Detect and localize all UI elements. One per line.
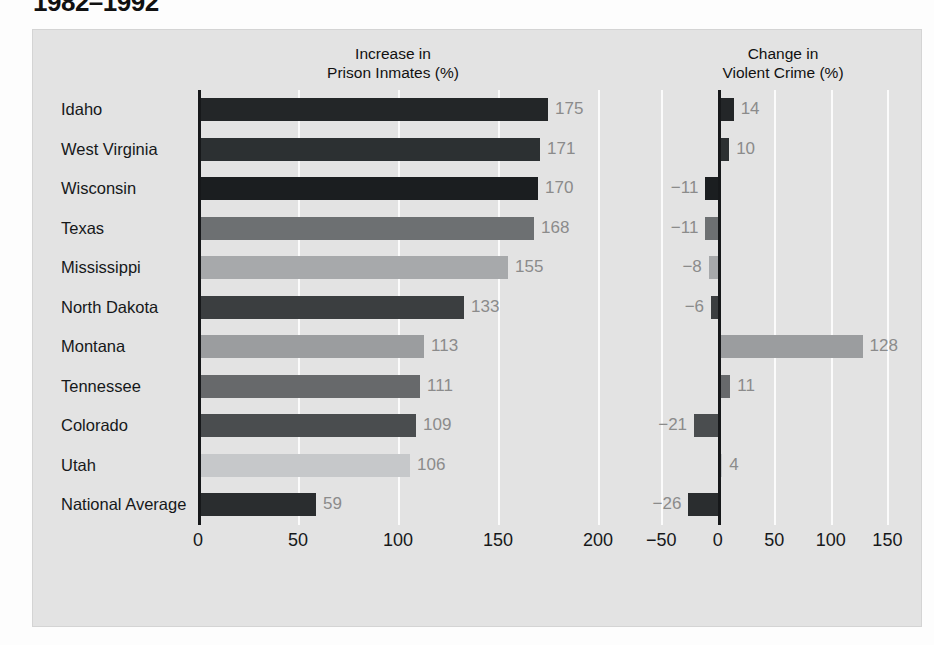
bar[interactable] <box>198 493 316 516</box>
chart-row: 128 <box>650 327 910 367</box>
axis-tick-label: 0 <box>193 530 203 551</box>
category-label: Idaho <box>33 90 193 130</box>
bar-value-label: 106 <box>417 455 445 475</box>
bar-value-label: 113 <box>431 336 458 356</box>
left-panel-header: Increase in Prison Inmates (%) <box>233 44 553 82</box>
chart-row: −11 <box>650 169 910 209</box>
right-panel-header-line1: Change in <box>653 44 913 63</box>
bar-value-label: −26 <box>653 494 682 514</box>
chart-row: −6 <box>650 288 910 328</box>
axis-tick-label: 50 <box>288 530 308 551</box>
bar-value-label: −11 <box>671 178 699 198</box>
chart-row: 175 <box>198 90 628 130</box>
chart-row: −26 <box>650 485 910 525</box>
bar[interactable] <box>198 335 424 358</box>
chart-row: 11 <box>650 367 910 407</box>
left-panel-header-line1: Increase in <box>233 44 553 63</box>
bar-value-label: 14 <box>741 99 760 119</box>
bar-value-label: 10 <box>736 139 755 159</box>
bar-value-label: −11 <box>671 218 699 238</box>
category-label: West Virginia <box>33 130 193 170</box>
category-label: Utah <box>33 446 193 486</box>
violent-crime-plot: 1410−11−11−8−612811−214−26 <box>650 90 910 525</box>
bar[interactable] <box>198 414 416 437</box>
bar[interactable] <box>198 138 540 161</box>
bar[interactable] <box>198 256 508 279</box>
bar[interactable] <box>694 414 718 437</box>
chart-row: 155 <box>198 248 628 288</box>
chart-row: 168 <box>198 209 628 249</box>
bar-value-label: 111 <box>427 376 453 396</box>
bar[interactable] <box>198 217 534 240</box>
right-panel-header: Change in Violent Crime (%) <box>653 44 913 82</box>
category-label: Mississippi <box>33 248 193 288</box>
chart-row: 113 <box>198 327 628 367</box>
axis-tick-label: 150 <box>872 530 902 551</box>
bar-value-label: 170 <box>545 178 573 198</box>
bar[interactable] <box>198 296 464 319</box>
chart-row: −8 <box>650 248 910 288</box>
bar[interactable] <box>705 177 717 200</box>
chart-row: 4 <box>650 446 910 486</box>
bar[interactable] <box>705 217 717 240</box>
bar-value-label: −8 <box>682 257 701 277</box>
axis-tick-label: 200 <box>583 530 613 551</box>
bar[interactable] <box>709 256 718 279</box>
bar-value-label: 171 <box>547 139 575 159</box>
chart-row: −11 <box>650 209 910 249</box>
axis-tick-label: 150 <box>483 530 513 551</box>
right-panel-header-line2: Violent Crime (%) <box>653 63 913 82</box>
category-label: National Average <box>33 485 193 525</box>
chart-panel: Increase in Prison Inmates (%) Change in… <box>33 30 921 626</box>
category-label: North Dakota <box>33 288 193 328</box>
chart-row: −21 <box>650 406 910 446</box>
category-label: Montana <box>33 327 193 367</box>
category-label: Tennessee <box>33 367 193 407</box>
bar-value-label: −21 <box>658 415 687 435</box>
bar-value-label: 59 <box>323 494 342 514</box>
page-title: 1982–1992 <box>33 0 159 18</box>
zero-axis-line <box>718 90 721 525</box>
bar-value-label: 128 <box>870 336 898 356</box>
bar-value-label: 175 <box>555 99 583 119</box>
chart-row: 111 <box>198 367 628 407</box>
bar-value-label: 168 <box>541 218 569 238</box>
bar[interactable] <box>198 454 410 477</box>
chart-row: 14 <box>650 90 910 130</box>
right-x-axis-ticks: −50050100150 <box>650 530 910 556</box>
chart-row: 170 <box>198 169 628 209</box>
chart-row: 109 <box>198 406 628 446</box>
bar[interactable] <box>688 493 717 516</box>
category-label: Wisconsin <box>33 169 193 209</box>
bar-value-label: 155 <box>515 257 543 277</box>
axis-tick-label: 50 <box>764 530 784 551</box>
left-panel-header-line2: Prison Inmates (%) <box>233 63 553 82</box>
chart-row: 133 <box>198 288 628 328</box>
axis-tick-label: 100 <box>383 530 413 551</box>
bar-value-label: −6 <box>685 297 704 317</box>
bar-value-label: 11 <box>737 376 755 396</box>
bar-value-label: 109 <box>423 415 451 435</box>
bar[interactable] <box>198 98 548 121</box>
bar[interactable] <box>718 335 863 358</box>
axis-tick-label: 100 <box>816 530 846 551</box>
zero-axis-line <box>198 90 201 525</box>
bar-value-label: 4 <box>729 455 738 475</box>
bar[interactable] <box>711 296 718 319</box>
chart-row: 171 <box>198 130 628 170</box>
left-x-axis-ticks: 050100150200 <box>198 530 628 556</box>
axis-tick-label: −50 <box>646 530 677 551</box>
chart-row: 59 <box>198 485 628 525</box>
category-label: Texas <box>33 209 193 249</box>
chart-row: 10 <box>650 130 910 170</box>
bar[interactable] <box>198 177 538 200</box>
chart-row: 106 <box>198 446 628 486</box>
axis-tick-label: 0 <box>713 530 723 551</box>
prison-inmates-plot: 17517117016815513311311110910659 <box>198 90 628 525</box>
bar[interactable] <box>198 375 420 398</box>
category-label: Colorado <box>33 406 193 446</box>
bar-value-label: 133 <box>471 297 499 317</box>
